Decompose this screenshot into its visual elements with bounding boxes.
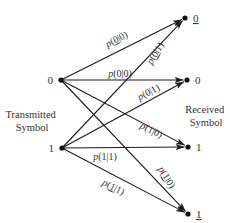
- node-rx1u: [185, 211, 190, 216]
- node-label-rx0u: 0: [193, 12, 199, 24]
- node-rx0u: [182, 15, 187, 20]
- edge-probability-label: p(1|0): [155, 163, 178, 190]
- edge-probability-label: p(0|1): [134, 82, 161, 104]
- node-label-rx1u: 1: [196, 208, 202, 220]
- node-tx0: [58, 77, 63, 82]
- binary-channel-diagram: p(0|0)p(0|1)p(0|0)p(0|1)p(1|0)p(1|1)p(1|…: [0, 0, 230, 223]
- edge-tx1-to-rx1: [62, 147, 185, 148]
- node-rx1: [185, 144, 190, 149]
- node-label-rx1: 1: [196, 141, 202, 153]
- node-label-tx0: 0: [48, 74, 54, 86]
- edge-probability-label: p(1|1): [92, 151, 117, 163]
- node-label-tx1: 1: [49, 142, 55, 154]
- transition-probability-labels: p(0|0)p(0|1)p(0|0)p(0|1)p(1|0)p(1|1)p(1|…: [92, 29, 178, 198]
- edge-tx1-to-rx0: [62, 82, 184, 148]
- edge-probability-label: p(0|0): [107, 68, 132, 80]
- node-label-rx0: 0: [195, 74, 201, 86]
- edge-tx0-to-rx1: [61, 80, 185, 145]
- edge-probability-label: p(0|1): [144, 40, 167, 67]
- node-tx1: [59, 145, 64, 150]
- received-symbol-label: Received Symbol: [185, 104, 227, 128]
- edge-probability-label: p(1|0): [137, 119, 164, 141]
- transmitted-symbol-label: Transmitted Symbol: [6, 109, 59, 133]
- node-rx0: [184, 77, 189, 82]
